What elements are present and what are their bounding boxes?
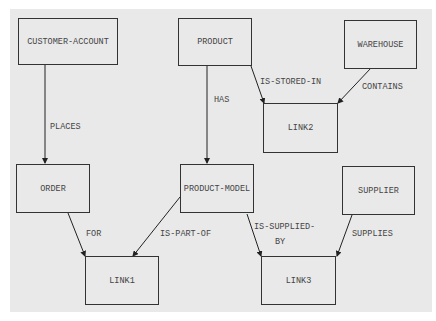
edge-label-for: FOR (86, 229, 101, 239)
entity-label: LINK1 (109, 276, 135, 286)
for-arrow (68, 213, 85, 256)
entity-link2[interactable]: LINK2 (263, 103, 338, 153)
entity-product-model[interactable]: PRODUCT-MODEL (180, 164, 254, 213)
entity-label: ORDER (40, 184, 66, 194)
edge-label-supplies: SUPPLIES (352, 229, 393, 239)
entity-customer-account[interactable]: CUSTOMER-ACCOUNT (18, 18, 118, 65)
edge-label-is-part-of: IS-PART-OF (160, 229, 211, 239)
entity-link1[interactable]: LINK1 (85, 256, 159, 305)
edge-label-contains: CONTAINS (362, 82, 403, 92)
entity-label: WAREHOUSE (358, 40, 404, 50)
entity-product[interactable]: PRODUCT (178, 18, 252, 66)
entity-label: CUSTOMER-ACCOUNT (27, 37, 109, 47)
entity-supplier[interactable]: SUPPLIER (342, 166, 415, 215)
entity-warehouse[interactable]: WAREHOUSE (344, 20, 417, 69)
entity-label: PRODUCT (197, 37, 233, 47)
entity-label: LINK2 (288, 123, 314, 133)
entity-link3[interactable]: LINK3 (261, 256, 336, 305)
entity-label: SUPPLIER (358, 186, 399, 196)
entity-label: PRODUCT-MODEL (184, 184, 250, 194)
edge-label-is-supplied-by-line2: BY (275, 237, 285, 247)
edge-label-is-stored-in: IS-STORED-IN (260, 77, 321, 87)
edge-label-is-supplied-by-line1: IS-SUPPLIED- (254, 222, 315, 232)
is-supplied-by-arrow (247, 214, 261, 256)
entity-order[interactable]: ORDER (16, 164, 90, 213)
edge-label-places: PLACES (50, 122, 81, 132)
supplies-arrow (337, 215, 352, 256)
edge-label-has: HAS (214, 95, 229, 105)
is-part-of-arrow (133, 197, 180, 256)
entity-label: LINK3 (286, 276, 312, 286)
